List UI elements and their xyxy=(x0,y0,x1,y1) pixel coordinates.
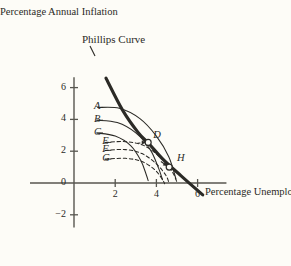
curve-label-g: G xyxy=(102,152,110,164)
y-axis-title: Percentage Annual Inflation xyxy=(0,6,66,18)
phillips-curve-annotation: Phillips Curve xyxy=(82,33,145,45)
curve-label-b: B xyxy=(94,113,100,125)
y-tick-label: 4 xyxy=(44,112,66,123)
data-point-h xyxy=(166,164,172,170)
curve-label-a: A xyxy=(94,100,100,112)
chart-plot-area xyxy=(0,0,291,266)
x-axis-title: Percentage Unemployment xyxy=(205,186,289,198)
curve-series xyxy=(97,78,203,195)
y-tick-label: 2 xyxy=(44,144,66,155)
x-tick-label: 4 xyxy=(149,188,163,199)
phillips-label-pointer xyxy=(90,46,95,56)
y-tick-label: 6 xyxy=(44,81,66,92)
y-tick-label: −2 xyxy=(44,208,66,219)
x-tick-label: 6 xyxy=(191,188,205,199)
point-label-d: D xyxy=(153,129,161,141)
y-tick-label: 0 xyxy=(44,176,66,187)
point-label-h: H xyxy=(177,152,185,164)
x-tick-label: 2 xyxy=(108,188,122,199)
curve-label-c: C xyxy=(94,126,101,138)
phillips-curve-figure: Percentage Annual Inflation Percentage U… xyxy=(0,0,291,266)
data-point-d xyxy=(145,139,151,145)
